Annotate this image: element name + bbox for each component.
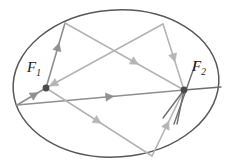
figure-canvas [0,0,232,166]
ray-f1-to-bottom-arrowhead [92,115,101,123]
ellipse-reflection-figure: F1 F2 [0,0,232,166]
focus-label-f1: F1 [27,60,41,79]
focus-dot-f1 [43,85,50,92]
ray-f1-to-topleft-arrowhead [53,43,61,52]
rays-layer [17,23,184,156]
ellipse-outline [8,3,224,164]
focus-label-f1-subscript: 1 [36,68,41,78]
focus-label-f1-letter: F [27,59,36,75]
ray-f1-to-topleft [46,23,65,88]
focus-label-f2: F2 [192,59,206,78]
ray-f2-to-topright-arrowhead [169,53,177,62]
ray-left-to-f2-arrowhead [105,93,113,101]
ellipse-layer [8,3,224,164]
ray-left-to-f2 [17,90,184,105]
ray-topright-to-f1 [46,24,163,88]
focus-label-f2-subscript: 2 [201,67,206,77]
tangent-at-f2-right [184,87,221,90]
focus-dot-f2 [181,87,188,94]
focus-label-f2-letter: F [192,58,201,74]
